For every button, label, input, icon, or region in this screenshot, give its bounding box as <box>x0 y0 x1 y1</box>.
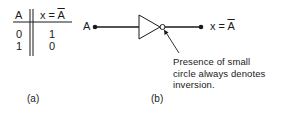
truth-table-header-x: x = A <box>40 10 65 21</box>
truth-table-row-0-a: 0 <box>16 29 22 40</box>
annotation-arrow-line <box>165 31 179 53</box>
truth-table-row-1-a: 1 <box>16 41 22 52</box>
inverter-output-label: x = A <box>210 21 235 32</box>
output-prefix: x = <box>210 20 227 32</box>
header-x-prefix: x = <box>40 9 57 21</box>
caption-b: (b) <box>151 93 163 104</box>
annotation-line-2: circle always denotes <box>173 68 265 80</box>
caption-a: (a) <box>27 93 39 104</box>
annotation-arrowhead <box>164 30 169 36</box>
truth-table-row-0-x: 1 <box>49 29 55 40</box>
annotation-line-3: inversion. <box>173 79 265 91</box>
output-a-bar: A <box>227 20 234 32</box>
header-a-bar: A <box>57 9 64 21</box>
truth-table-row-1-x: 0 <box>49 41 55 52</box>
output-terminal-dot <box>199 25 204 30</box>
inverter-triangle <box>139 15 160 39</box>
truth-table-header-a: A <box>15 10 22 21</box>
annotation-line-1: Presence of small <box>173 56 265 68</box>
inverter-input-label: A <box>83 21 90 32</box>
annotation-text: Presence of small circle always denotes … <box>173 56 265 91</box>
inversion-bubble <box>160 25 165 30</box>
